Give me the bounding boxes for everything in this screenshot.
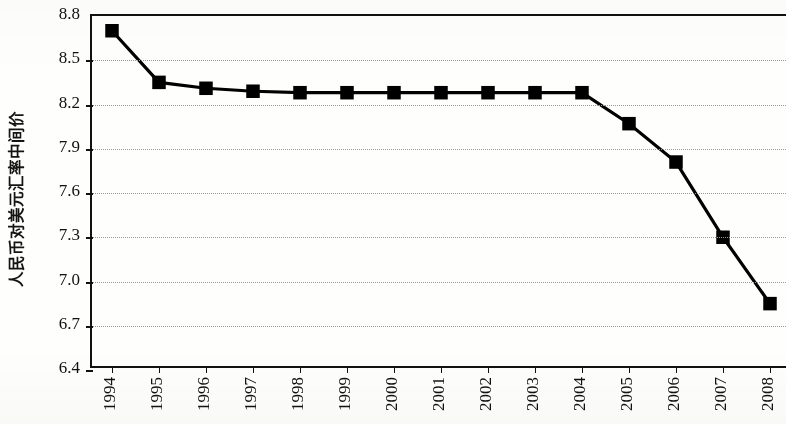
data-point-marker bbox=[763, 297, 777, 311]
plot-area bbox=[90, 14, 786, 368]
data-point-marker bbox=[528, 86, 542, 100]
data-point-marker bbox=[434, 86, 448, 100]
x-axis-tick-labels: 1994199519961997199819992000200120022003… bbox=[0, 370, 786, 424]
data-point-marker bbox=[152, 76, 166, 90]
y-axis-tick-label: 7.6 bbox=[34, 182, 80, 199]
y-axis-title: 人民币对美元汇率中间价 bbox=[4, 34, 26, 364]
data-point-marker bbox=[246, 84, 260, 98]
gridline bbox=[92, 105, 786, 106]
x-axis-tick-label: 1994 bbox=[100, 357, 120, 411]
y-axis-tick-mark bbox=[86, 237, 93, 239]
data-point-marker bbox=[105, 24, 119, 38]
data-point-marker bbox=[340, 86, 354, 100]
chart-figure: 人民币对美元汇率中间价 8.88.58.27.97.67.37.06.76.4 … bbox=[0, 0, 786, 424]
y-axis-tick-label: 7.9 bbox=[34, 138, 80, 155]
data-point-marker bbox=[387, 86, 401, 100]
x-axis-tick-label: 2003 bbox=[523, 357, 543, 411]
x-axis-tick-label: 1999 bbox=[335, 357, 355, 411]
x-axis-tick-label: 1996 bbox=[194, 357, 214, 411]
data-point-marker bbox=[575, 86, 589, 100]
x-axis-tick-label: 2007 bbox=[711, 357, 731, 411]
y-axis-tick-mark bbox=[86, 193, 93, 195]
data-point-marker bbox=[622, 117, 636, 130]
gridline bbox=[92, 326, 786, 327]
y-axis-tick-label: 8.2 bbox=[34, 94, 80, 111]
data-point-marker bbox=[293, 86, 307, 100]
y-axis-tick-label: 8.5 bbox=[34, 49, 80, 66]
x-axis-tick-label: 2000 bbox=[382, 357, 402, 411]
gridline bbox=[92, 237, 786, 238]
y-axis-tick-label: 7.3 bbox=[34, 226, 80, 243]
x-axis-tick-label: 1998 bbox=[288, 357, 308, 411]
y-axis-tick-labels: 8.88.58.27.97.67.37.06.76.4 bbox=[28, 0, 80, 424]
gridline bbox=[92, 193, 786, 194]
y-axis-tick-mark bbox=[86, 105, 93, 107]
x-axis-tick-label: 2005 bbox=[617, 357, 637, 411]
x-axis-tick-label: 2002 bbox=[476, 357, 496, 411]
gridline bbox=[92, 149, 786, 150]
x-axis-tick-label: 2001 bbox=[429, 357, 449, 411]
y-axis-tick-mark bbox=[86, 282, 93, 284]
y-axis-tick-label: 8.8 bbox=[34, 5, 80, 22]
gridline bbox=[92, 282, 786, 283]
y-axis-tick-mark bbox=[86, 326, 93, 328]
x-axis-tick-label: 1997 bbox=[241, 357, 261, 411]
y-axis-tick-mark bbox=[86, 149, 93, 151]
y-axis-tick-label: 7.0 bbox=[34, 271, 80, 288]
gridline bbox=[92, 60, 786, 61]
data-point-marker bbox=[481, 86, 495, 100]
data-point-marker bbox=[199, 82, 213, 96]
x-axis-tick-label: 2008 bbox=[758, 357, 778, 411]
x-axis-tick-label: 1995 bbox=[147, 357, 167, 411]
data-point-marker bbox=[669, 155, 683, 169]
x-axis-tick-label: 2006 bbox=[664, 357, 684, 411]
y-axis-tick-mark bbox=[86, 60, 93, 62]
x-axis-tick-label: 2004 bbox=[570, 357, 590, 411]
y-axis-tick-label: 6.7 bbox=[34, 315, 80, 332]
